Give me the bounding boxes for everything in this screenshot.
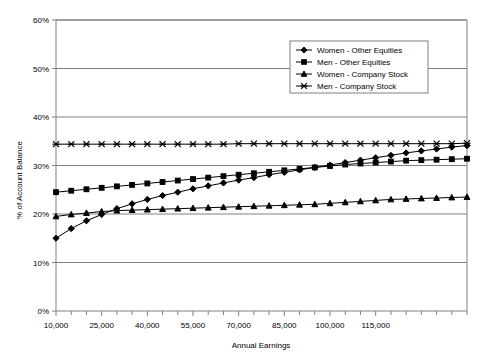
marker-square: [328, 164, 333, 169]
line-chart: 0%10%20%30%40%50%60% 10,00025,00040,0005…: [0, 0, 482, 364]
marker-square: [236, 172, 241, 177]
marker-square: [282, 168, 287, 173]
marker-square: [69, 188, 74, 193]
y-tick-label: 30%: [33, 162, 49, 171]
marker-square: [99, 185, 104, 190]
y-tick-label: 20%: [33, 210, 49, 219]
marker-square: [145, 181, 150, 186]
marker-square: [191, 177, 196, 182]
legend-item-label: Women - Company Stock: [317, 70, 409, 79]
chart-legend[interactable]: Women - Other EquitiesMen - Other Equiti…: [290, 41, 428, 93]
marker-square: [175, 178, 180, 183]
y-axis-title: % of Account Balance: [15, 141, 24, 219]
y-tick-label: 60%: [33, 16, 49, 25]
marker-square: [302, 60, 307, 65]
marker-square: [206, 175, 211, 180]
marker-square: [465, 156, 470, 161]
marker-square: [343, 162, 348, 167]
marker-square: [434, 157, 439, 162]
marker-square: [160, 180, 165, 185]
marker-square: [297, 166, 302, 171]
marker-square: [388, 159, 393, 164]
y-tick-label: 40%: [33, 113, 49, 122]
x-tick-label: 70,000: [226, 321, 251, 330]
marker-square: [404, 158, 409, 163]
legend-item-label: Men - Other Equities: [317, 58, 390, 67]
x-tick-label: 115,000: [362, 321, 391, 330]
marker-square: [267, 169, 272, 174]
x-tick-label: 25,000: [89, 321, 114, 330]
y-tick-label: 10%: [33, 259, 49, 268]
x-tick-label: 10,000: [44, 321, 69, 330]
marker-square: [419, 158, 424, 163]
marker-square: [114, 184, 119, 189]
marker-square: [221, 174, 226, 179]
x-axis-title: Annual Earnings: [232, 341, 291, 350]
legend-item-label: Men - Company Stock: [317, 82, 397, 91]
legend-item-label: Women - Other Equities: [317, 46, 402, 55]
marker-square: [84, 187, 89, 192]
y-tick-label: 0%: [37, 307, 49, 316]
x-tick-label: 55,000: [181, 321, 206, 330]
x-tick-label: 40,000: [135, 321, 160, 330]
y-tick-label: 50%: [33, 65, 49, 74]
marker-square: [312, 165, 317, 170]
marker-square: [251, 171, 256, 176]
marker-square: [449, 157, 454, 162]
chart-container: 0%10%20%30%40%50%60% 10,00025,00040,0005…: [0, 0, 482, 364]
marker-square: [373, 160, 378, 165]
x-tick-label: 85,000: [272, 321, 297, 330]
marker-square: [130, 183, 135, 188]
marker-square: [54, 190, 59, 195]
marker-square: [358, 161, 363, 166]
x-tick-label: 100,000: [316, 321, 345, 330]
